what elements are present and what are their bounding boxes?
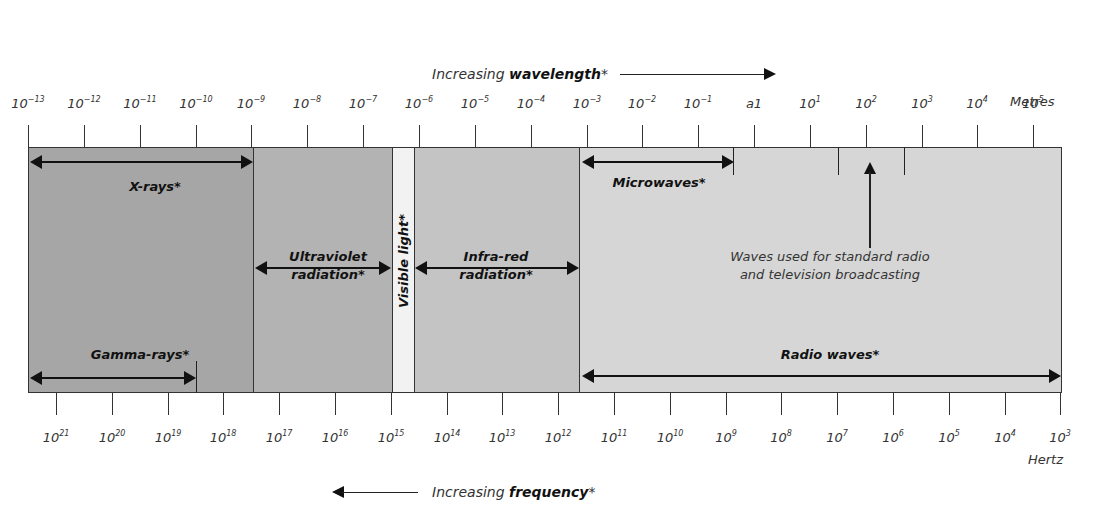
frequency-tick [502, 393, 503, 415]
caption-asterisk: * [588, 484, 595, 500]
frequency-tick-label: 109 [715, 430, 737, 445]
frequency-tick-label: 106 [882, 430, 904, 445]
broadcast-annotation-line2: and television broadcasting [700, 266, 960, 284]
wavelength-tick-label: 102 [855, 96, 877, 111]
radio-waves-label: Radio waves* [760, 346, 900, 364]
broadcast-annotation: Waves used for standard radio and televi… [700, 248, 960, 284]
wavelength-tick [196, 125, 197, 147]
visible-light-label: Visible light* [395, 213, 413, 309]
wavelength-tick [642, 125, 643, 147]
wavelength-tick-label: 10−1 [684, 96, 712, 111]
wavelength-tick [140, 125, 141, 147]
wavelength-tick [922, 125, 923, 147]
wavelength-tick-label: 10−7 [349, 96, 377, 111]
right-arrow-icon [567, 261, 579, 275]
frequency-tick-label: 1018 [210, 430, 237, 445]
left-arrow-icon [30, 155, 42, 169]
ultraviolet-label-line1: Ultraviolet [268, 248, 388, 266]
wavelength-tick [587, 125, 588, 147]
wavelength-tick-label: 104 [966, 96, 988, 111]
caption-prefix: Increasing [432, 484, 509, 500]
gamma-rays-label: Gamma-rays* [80, 346, 200, 364]
wavelength-caption: Increasing wavelength* [432, 66, 608, 82]
frequency-tick [781, 393, 782, 415]
wavelength-tick [698, 125, 699, 147]
wavelength-tick-label: 10−11 [123, 96, 156, 111]
right-arrow-icon [379, 261, 391, 275]
frequency-tick-label: 105 [938, 430, 960, 445]
caption-prefix: Increasing [432, 66, 509, 82]
left-arrow-icon [255, 261, 267, 275]
wavelength-tick [1033, 125, 1034, 147]
wavelength-tick-label: 10−10 [179, 96, 212, 111]
frequency-tick-label: 107 [826, 430, 848, 445]
wavelength-tick [28, 125, 29, 147]
wavelength-tick [419, 125, 420, 147]
frequency-tick [112, 393, 113, 415]
frequency-tick-label: 103 [1049, 430, 1071, 445]
infrared-range-line [422, 267, 572, 269]
frequency-tick [279, 393, 280, 415]
wavelength-tick [475, 125, 476, 147]
wavelength-tick [363, 125, 364, 147]
wavelength-tick-label: 10−6 [405, 96, 433, 111]
frequency-tick [56, 393, 57, 415]
frequency-tick-label: 108 [770, 430, 792, 445]
broadcast-pointer-line [869, 172, 871, 248]
microwaves-end-marker [733, 147, 734, 175]
frequency-tick [670, 393, 671, 415]
broadcast-annotation-line1: Waves used for standard radio [700, 248, 960, 266]
frequency-tick-label: 1020 [99, 430, 126, 445]
left-arrow-icon [30, 371, 42, 385]
frequency-tick-label: 1017 [266, 430, 293, 445]
frequency-tick-label: 1013 [489, 430, 516, 445]
wavelength-tick-label: 103 [911, 96, 933, 111]
broadcast-end-marker [904, 147, 905, 175]
frequency-tick [1060, 393, 1061, 415]
caption-keyword: frequency [509, 484, 588, 500]
wavelength-tick-label: 10−2 [628, 96, 656, 111]
frequency-caption: Increasing frequency* [432, 484, 595, 500]
microwaves-range-line [588, 161, 728, 163]
ultraviolet-range-line [262, 267, 384, 269]
frequency-tick-label: 1021 [43, 430, 70, 445]
infrared-label-line1: Infra-red [436, 248, 556, 266]
wavelength-tick [977, 125, 978, 147]
xrays-label: X-rays* [100, 178, 210, 196]
right-arrow-icon [241, 155, 253, 169]
microwaves-label: Microwaves* [604, 174, 714, 192]
wavelength-arrow-line [620, 74, 768, 75]
wavelength-tick-label: 10−8 [293, 96, 321, 111]
frequency-tick-label: 1012 [545, 430, 572, 445]
frequency-tick [558, 393, 559, 415]
frequency-tick [168, 393, 169, 415]
frequency-arrow-line [342, 492, 418, 493]
wavelength-tick [307, 125, 308, 147]
frequency-tick [893, 393, 894, 415]
wavelength-tick [866, 125, 867, 147]
frequency-tick-label: 1014 [434, 430, 461, 445]
gamma-end-marker [196, 361, 197, 393]
left-arrow-icon [582, 369, 594, 383]
frequency-tick [614, 393, 615, 415]
right-arrow-icon [184, 371, 196, 385]
wavelength-tick-label: 10−13 [11, 96, 44, 111]
frequency-tick-label: 1010 [657, 430, 684, 445]
wavelength-tick-label: 10−5 [461, 96, 489, 111]
wavelength-tick [810, 125, 811, 147]
frequency-tick [447, 393, 448, 415]
xrays-range-line [36, 161, 246, 163]
wavelength-tick-label: a1 [746, 96, 762, 111]
wavelength-tick-label: 10−3 [573, 96, 601, 111]
wavelength-tick [531, 125, 532, 147]
frequency-tick [335, 393, 336, 415]
wavelength-tick [251, 125, 252, 147]
wavelength-tick-label: 10−12 [67, 96, 100, 111]
wavelength-tick-label: 10−4 [517, 96, 545, 111]
left-arrow-icon [582, 155, 594, 169]
frequency-tick [1005, 393, 1006, 415]
frequency-tick [391, 393, 392, 415]
frequency-tick [949, 393, 950, 415]
frequency-tick-label: 1011 [601, 430, 628, 445]
frequency-tick [726, 393, 727, 415]
